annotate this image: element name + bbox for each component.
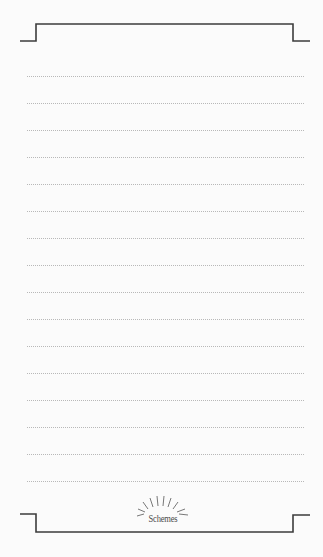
notepad-page: Schemes bbox=[0, 0, 323, 557]
ruled-line bbox=[27, 265, 304, 266]
ruled-line bbox=[27, 238, 304, 239]
ruled-line bbox=[27, 103, 304, 104]
brand-logo: Schemes bbox=[135, 495, 191, 525]
ruled-line bbox=[27, 373, 304, 374]
ruled-line bbox=[27, 76, 304, 77]
brand-name: Schemes bbox=[139, 513, 187, 524]
page-frame bbox=[0, 0, 323, 557]
ruled-line bbox=[27, 319, 304, 320]
top-border bbox=[20, 24, 310, 41]
ruled-line bbox=[27, 481, 304, 482]
ruled-line bbox=[27, 211, 304, 212]
ruled-line bbox=[27, 157, 304, 158]
ruled-line bbox=[27, 427, 304, 428]
ruled-line bbox=[27, 454, 304, 455]
ruled-line bbox=[27, 292, 304, 293]
ruled-line bbox=[27, 346, 304, 347]
ruled-line bbox=[27, 400, 304, 401]
ruled-line bbox=[27, 184, 304, 185]
ruled-line bbox=[27, 130, 304, 131]
